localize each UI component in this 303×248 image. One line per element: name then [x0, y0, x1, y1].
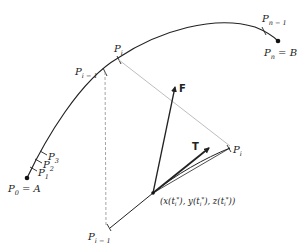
line-integral-diagram: P0 = A P1 P2 P3 Pi − 1 Pi Pn − 1 Pn = B … — [0, 0, 303, 248]
label-pi-lower: Pi — [232, 144, 242, 158]
label-sample-point: (x(ti*), y(ti*), z(ti*)) — [160, 196, 235, 207]
point-b-marker — [276, 39, 281, 44]
label-pn-b: Pn = B — [263, 47, 297, 61]
partition-ticks — [30, 27, 266, 171]
label-tangent: T — [192, 141, 199, 152]
label-pim1-upper: Pi − 1 — [74, 66, 98, 80]
point-a-marker — [25, 176, 30, 181]
sample-point-marker — [151, 191, 155, 195]
dashed-vertical — [105, 72, 106, 225]
label-pnm1: Pn − 1 — [261, 13, 287, 27]
chord-lower — [110, 193, 153, 228]
label-force: F — [179, 83, 186, 94]
label-pi-upper: Pi — [113, 43, 123, 57]
dashed-diagonal — [119, 60, 230, 146]
label-pim1-lower: Pi − 1 — [87, 231, 111, 245]
label-p0-a: P0 = A — [7, 183, 41, 197]
chord-upper — [153, 148, 230, 193]
